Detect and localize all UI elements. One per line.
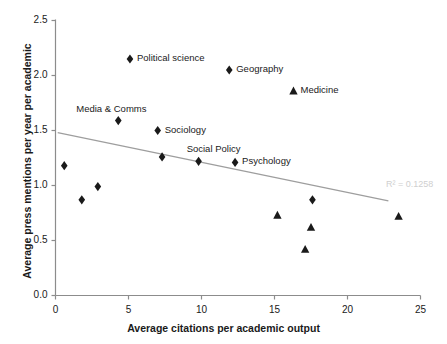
point-label-geography: Geography — [236, 63, 283, 74]
point-label-sociology: Sociology — [165, 124, 206, 135]
plot-area — [0, 0, 447, 344]
x-tick-label-1: 5 — [109, 304, 149, 315]
marker-diamond-0-8 — [95, 182, 102, 191]
point-label-political-science: Political science — [137, 52, 205, 63]
marker-diamond-0-3 — [154, 126, 161, 135]
marker-diamond-0-5 — [195, 157, 202, 166]
point-label-medicine: Medicine — [300, 84, 338, 95]
marker-diamond-0-9 — [78, 195, 85, 204]
point-label-psychology: Psychology — [242, 155, 291, 166]
marker-triangle-1-2 — [394, 212, 402, 220]
marker-diamond-0-2 — [115, 116, 122, 125]
x-axis-title: Average citations per academic output — [0, 322, 447, 334]
marker-diamond-0-7 — [61, 161, 68, 170]
marker-diamond-0-6 — [232, 158, 239, 167]
r-squared-annotation: R² = 0.1258 — [386, 179, 433, 189]
x-tick-label-2: 10 — [182, 304, 222, 315]
marker-diamond-0-0 — [127, 54, 134, 63]
marker-triangle-1-1 — [273, 211, 281, 219]
marker-triangle-1-3 — [307, 223, 315, 231]
marker-diamond-0-10 — [309, 195, 316, 204]
marker-triangle-1-0 — [289, 87, 297, 95]
x-tick-label-5: 25 — [401, 304, 441, 315]
marker-diamond-0-1 — [226, 65, 233, 74]
point-label-social-policy: Social Policy — [169, 143, 259, 154]
point-label-media-comms: Media & Comms — [76, 103, 146, 114]
x-tick-label-4: 20 — [328, 304, 368, 315]
scatter-chart-figure: 0.00.51.01.52.02.50510152025 Political s… — [0, 0, 447, 344]
x-tick-label-3: 15 — [255, 304, 295, 315]
x-tick-label-0: 0 — [36, 304, 76, 315]
marker-triangle-1-4 — [301, 245, 309, 253]
y-axis-title: Average press mentions per year per acad… — [21, 11, 33, 311]
